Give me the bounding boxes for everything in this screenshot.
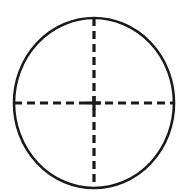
reticle-diagram [0, 0, 188, 195]
figure-canvas [0, 0, 188, 195]
